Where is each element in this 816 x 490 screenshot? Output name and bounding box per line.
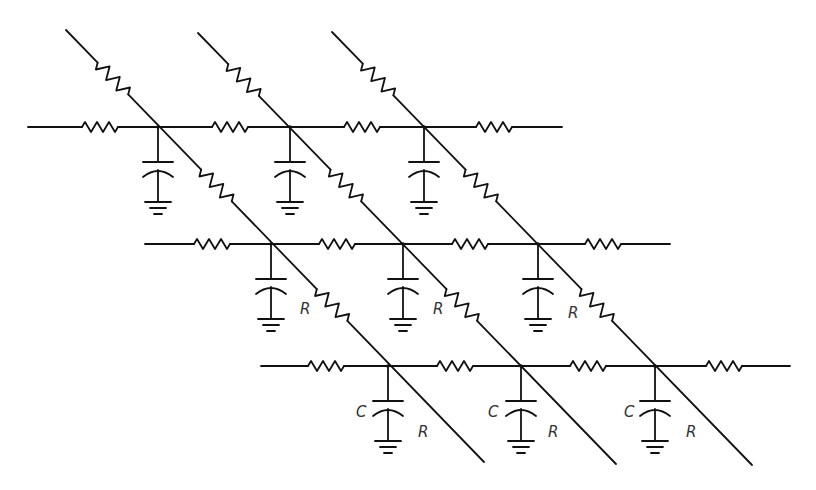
resistor-icon — [452, 239, 488, 249]
diagonal-wire — [332, 32, 363, 64]
capacitor-label: C — [488, 403, 499, 421]
diagonal-wire — [612, 321, 752, 465]
resistor-icon — [361, 64, 395, 96]
resistor-icon — [464, 170, 498, 202]
resistor-icon — [437, 361, 473, 371]
diagonal-wire — [259, 96, 331, 170]
resistor-icon — [329, 170, 363, 202]
resistor-label: R — [418, 423, 428, 441]
diagonal-wire — [393, 95, 465, 169]
diagonal-wire — [128, 94, 201, 169]
resistor-icon — [308, 361, 344, 371]
capacitor-label: C — [356, 403, 367, 421]
resistor-icon — [570, 361, 606, 371]
resistor-icon — [199, 170, 233, 202]
diagonal-wire — [347, 321, 484, 462]
resistor-icon — [227, 64, 261, 96]
resistor-icon — [212, 122, 248, 132]
resistor-label: R — [548, 423, 558, 441]
resistor-icon — [315, 289, 349, 321]
resistor-icon — [82, 122, 118, 132]
resistor-icon — [706, 361, 742, 371]
resistor-icon — [344, 122, 380, 132]
resistor-icon — [585, 239, 621, 249]
diagonal-wire — [66, 30, 98, 63]
resistor-label: R — [300, 300, 310, 318]
resistor-icon — [580, 289, 614, 321]
rc-grid-diagram: RRRRRRCCC — [0, 0, 816, 490]
resistor-label: R — [568, 304, 578, 322]
resistor-label: R — [686, 423, 696, 441]
resistor-icon — [319, 239, 355, 249]
resistor-label: R — [433, 300, 443, 318]
circuit-svg: RRRRRRCCC — [0, 0, 816, 490]
diagonal-wire — [232, 201, 317, 289]
diagonal-wire — [477, 321, 616, 464]
resistor-icon — [194, 239, 230, 249]
resistor-icon — [445, 289, 479, 321]
diagonal-wire — [198, 33, 228, 64]
resistor-icon — [476, 122, 512, 132]
resistor-icon — [96, 63, 130, 95]
capacitor-label: C — [624, 403, 635, 421]
